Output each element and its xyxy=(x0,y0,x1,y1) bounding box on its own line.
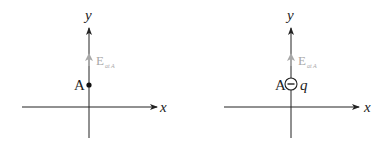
negative-charge-icon xyxy=(285,78,297,90)
y-axis-label: y xyxy=(285,7,294,23)
charge-label: q xyxy=(300,77,308,93)
point-a-label: A xyxy=(275,77,286,93)
y-axis-label: y xyxy=(83,7,92,23)
field-subscript: at A xyxy=(307,63,317,69)
left-panel: x y E at A A xyxy=(22,7,167,138)
point-a-label: A xyxy=(74,77,85,93)
field-label: E xyxy=(298,53,306,68)
x-axis-label: x xyxy=(363,99,371,115)
x-axis-label: x xyxy=(159,99,167,115)
field-label: E xyxy=(96,53,104,68)
diagram-canvas: x y E at A A x y E at A A q xyxy=(0,0,389,141)
point-a-dot xyxy=(86,82,91,87)
right-panel: x y E at A A q xyxy=(224,7,371,138)
field-subscript: at A xyxy=(105,63,115,69)
